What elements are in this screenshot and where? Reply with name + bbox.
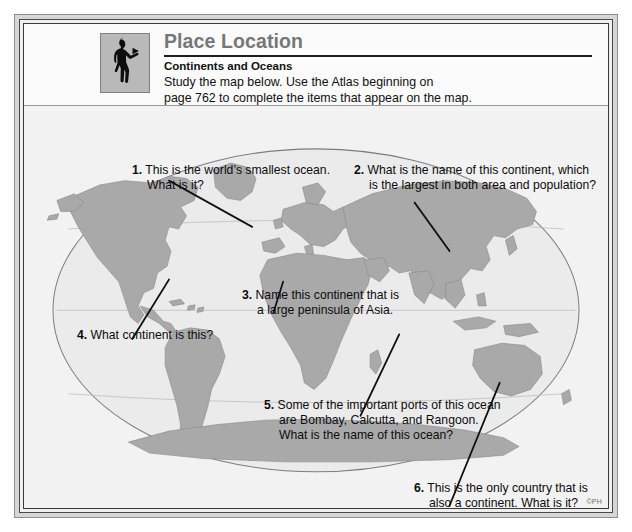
- copyright-notice: ©PH: [587, 498, 602, 505]
- page-title: Place Location: [164, 30, 303, 53]
- person-looking-silhouette-icon: [100, 33, 150, 93]
- question-3-number: 3.: [242, 288, 252, 302]
- question-1: 1. This is the world’s smallest ocean. W…: [132, 163, 330, 193]
- map-area: 1. This is the world’s smallest ocean. W…: [24, 106, 608, 508]
- question-3: 3. Name this continent that is a large p…: [242, 288, 399, 318]
- question-2-text: What is the name of this continent, whic…: [368, 163, 596, 192]
- lesson-subtitle: Continents and Oceans: [164, 60, 292, 72]
- philippines-islands: [477, 293, 487, 306]
- question-1-number: 1.: [132, 163, 142, 177]
- question-1-text: This is the world’s smallest ocean. What…: [145, 163, 330, 192]
- frame-inner-border: Place Location Continents and Oceans Stu…: [23, 23, 609, 509]
- new-zealand-islands: [562, 389, 572, 404]
- question-5: 5. Some of the important ports of this o…: [264, 398, 500, 443]
- worksheet-page: Place Location Continents and Oceans Stu…: [0, 0, 632, 532]
- question-6-text: This is the only country that is also a …: [427, 481, 588, 509]
- question-2-number: 2.: [354, 163, 364, 177]
- question-2: 2. What is the name of this continent, w…: [354, 163, 596, 193]
- worksheet-header: Place Location Continents and Oceans Stu…: [24, 24, 608, 106]
- question-5-number: 5.: [264, 398, 274, 412]
- question-4-number: 4.: [77, 328, 87, 342]
- question-4: 4. What continent is this?: [77, 328, 213, 343]
- question-5-text: Some of the important ports of this ocea…: [278, 398, 501, 442]
- aleutian-islands: [47, 214, 59, 221]
- question-6-number: 6.: [414, 481, 424, 495]
- question-4-text: What continent is this?: [91, 328, 214, 342]
- question-6: 6. This is the only country that is also…: [414, 481, 588, 509]
- british-isles: [273, 218, 283, 229]
- frame-middle-border: Place Location Continents and Oceans Stu…: [19, 19, 613, 513]
- title-rule: [164, 55, 592, 57]
- instructions-text: Study the map below. Use the Atlas begin…: [164, 75, 472, 106]
- frame-outer-border: Place Location Continents and Oceans Stu…: [14, 14, 618, 518]
- question-3-text: Name this continent that is a large peni…: [256, 288, 400, 317]
